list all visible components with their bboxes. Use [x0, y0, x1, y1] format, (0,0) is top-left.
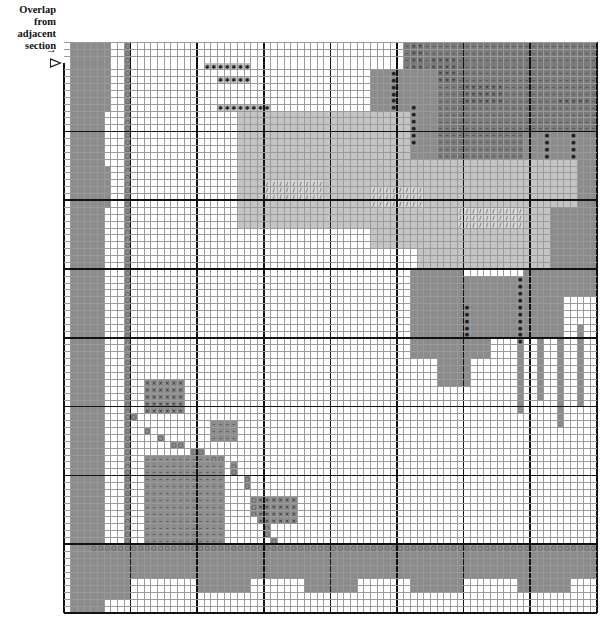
grid-line — [170, 42, 171, 613]
grid-line — [350, 42, 351, 613]
grid-line — [64, 234, 597, 235]
grid-line — [343, 42, 344, 613]
grid-line — [64, 386, 597, 387]
legend-line-2: from — [2, 16, 56, 28]
grid-line — [64, 455, 597, 456]
cross-stitch-chart: ○○○○○○○○○○○○○○○○○○○○○○○○○○○○○○○○○○○○○○○○… — [64, 42, 597, 613]
grid-line — [164, 42, 165, 613]
grid-line — [190, 42, 191, 613]
grid-line — [64, 537, 597, 538]
major-grid-line — [596, 42, 598, 613]
grid-line — [437, 42, 438, 613]
grid-line — [64, 241, 597, 242]
major-grid-line — [463, 42, 465, 613]
overlap-triangle-icon — [50, 58, 62, 68]
grid-line — [64, 117, 597, 118]
grid-line — [450, 42, 451, 613]
grid-line — [64, 351, 597, 352]
grid-line — [64, 468, 597, 469]
grid-line — [117, 42, 118, 613]
grid-line — [64, 317, 597, 318]
grid-line — [64, 276, 597, 277]
grid-line — [64, 503, 597, 504]
grid-line — [523, 42, 524, 613]
grid-line — [64, 255, 597, 256]
grid-line — [244, 42, 245, 613]
grid-line — [64, 441, 597, 442]
grid-line — [64, 510, 597, 511]
grid-line — [84, 42, 85, 613]
bird-body-stitches — [264, 180, 324, 201]
grid-line — [583, 42, 584, 613]
grid-line — [64, 111, 597, 112]
grid-line — [503, 42, 504, 613]
grid-line — [497, 42, 498, 613]
grid-line — [104, 42, 105, 613]
grid-line — [64, 344, 597, 345]
grid-line — [423, 42, 424, 613]
grid-line — [64, 358, 597, 359]
grid-line — [370, 42, 371, 613]
grid-line — [64, 207, 597, 208]
grid-line — [64, 83, 597, 84]
grid-line — [64, 572, 597, 573]
grid-line — [64, 310, 597, 311]
grid-line — [470, 42, 471, 613]
grid-line — [64, 303, 597, 304]
grid-line — [110, 42, 111, 613]
grid-line — [64, 179, 597, 180]
grid-line — [64, 221, 597, 222]
grid-line — [64, 104, 597, 105]
grid-line — [97, 42, 98, 613]
major-grid-line — [330, 42, 332, 613]
grid-line — [64, 565, 597, 566]
grid-line — [64, 69, 597, 70]
grid-line — [184, 42, 185, 613]
grid-line — [64, 482, 597, 483]
grid-line — [64, 172, 597, 173]
grid-line — [64, 124, 597, 125]
grid-line — [317, 42, 318, 613]
grid-line — [284, 42, 285, 613]
grid-line — [64, 97, 597, 98]
grid-line — [157, 42, 158, 613]
grid-line — [417, 42, 418, 613]
grid-line — [477, 42, 478, 613]
grid-line — [490, 42, 491, 613]
grid-line — [77, 42, 78, 613]
grid-line — [337, 42, 338, 613]
major-grid-line — [64, 199, 597, 201]
grid-line — [64, 420, 597, 421]
legend-line-1: Overlap — [2, 4, 56, 16]
grid-line — [357, 42, 358, 613]
grid-line — [550, 42, 551, 613]
grid-line — [64, 214, 597, 215]
grid-line — [64, 372, 597, 373]
major-grid-line — [263, 42, 265, 613]
grid-line — [517, 42, 518, 613]
grid-line — [64, 56, 597, 57]
grid-line — [304, 42, 305, 613]
major-grid-line — [64, 475, 597, 477]
grid-line — [224, 42, 225, 613]
major-grid-line — [64, 337, 597, 339]
grid-line — [277, 42, 278, 613]
grid-line — [570, 42, 571, 613]
grid-line — [64, 365, 597, 366]
grid-line — [64, 489, 597, 490]
grid-line — [64, 324, 597, 325]
grid-line — [64, 379, 597, 380]
grid-line — [64, 331, 597, 332]
grid-line — [204, 42, 205, 613]
grid-line — [457, 42, 458, 613]
overlap-arrow-icon: → — [46, 45, 57, 53]
grid-line — [230, 42, 231, 613]
grid-line — [64, 592, 597, 593]
grid-line — [557, 42, 558, 613]
grid-line — [377, 42, 378, 613]
grid-line — [577, 42, 578, 613]
grid-line — [64, 413, 597, 414]
grid-line — [483, 42, 484, 613]
grid-line — [124, 42, 125, 613]
grid-line — [64, 558, 597, 559]
